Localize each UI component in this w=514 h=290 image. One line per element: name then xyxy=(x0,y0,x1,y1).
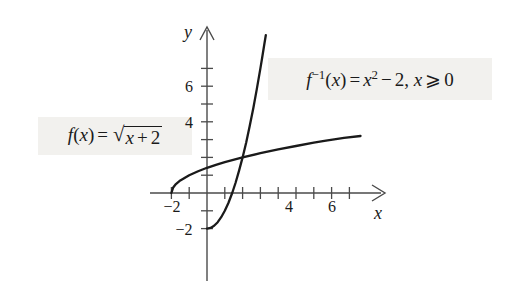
finv-rhs-const: 2 xyxy=(395,69,405,90)
y-tick-label-6: 6 xyxy=(181,78,197,96)
finv-equals: = xyxy=(346,69,363,90)
y-tick-label-minus2: −2 xyxy=(170,221,198,239)
inverse-function-graph-figure: f(x)=√x+2 f−1(x)=x2−2, x⩾0 x y −2 4 6 6 … xyxy=(0,0,514,290)
finv-minus: − xyxy=(378,69,395,90)
x-tick-label-minus2: −2 xyxy=(157,198,187,216)
radicand-const: 2 xyxy=(151,127,161,148)
radicand-var: x xyxy=(125,127,133,148)
curve-f xyxy=(171,136,360,193)
radical-sign-icon: √ xyxy=(113,125,125,145)
radicand-plus: + xyxy=(134,127,151,148)
x-tick-label-6: 6 xyxy=(324,198,340,216)
y-tick-label-4: 4 xyxy=(181,114,197,132)
radical-group: √x+2 xyxy=(113,125,162,147)
radicand: x+2 xyxy=(124,126,162,147)
finv-domain-var: x xyxy=(414,69,422,90)
f-arg: x xyxy=(79,124,87,145)
curve-f-inverse xyxy=(207,35,266,228)
finv-arg: x xyxy=(332,69,340,90)
finv-domain-bound: 0 xyxy=(444,69,454,90)
finv-comma: , xyxy=(404,69,409,90)
finv-rhs-var: x xyxy=(363,69,371,90)
axis-label-x: x xyxy=(374,203,382,224)
y-axis xyxy=(200,27,214,281)
axis-label-y: y xyxy=(184,22,192,43)
finv-exponent: −1 xyxy=(312,67,326,82)
formula-finv-text: f−1(x)=x2−2, x⩾0 xyxy=(306,69,453,89)
formula-label-f: f(x)=√x+2 xyxy=(38,117,192,155)
formula-f-text: f(x)=√x+2 xyxy=(68,125,162,147)
finv-domain-relation: ⩾ xyxy=(422,69,444,90)
x-tick-label-4: 4 xyxy=(281,198,297,216)
formula-label-f-inverse: f−1(x)=x2−2, x⩾0 xyxy=(268,58,492,100)
f-equals: = xyxy=(94,124,111,145)
